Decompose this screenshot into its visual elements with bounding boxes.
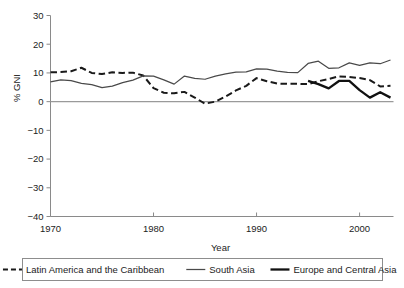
series-line-1 — [51, 68, 391, 104]
y-tick-label: −30 — [27, 182, 43, 193]
y-tick-label: 10 — [33, 67, 44, 78]
legend-label-2: South Asia — [209, 264, 255, 275]
y-tick-label: −20 — [27, 153, 43, 164]
chart-figure: 3020100−10−20−30−401970198019902000Year%… — [0, 0, 404, 288]
y-tick-label: −40 — [27, 211, 43, 222]
x-tick-label: 1980 — [143, 223, 164, 234]
line-chart: 3020100−10−20−30−401970198019902000Year%… — [0, 0, 404, 288]
y-tick-label: 20 — [33, 39, 44, 50]
x-tick-label: 2000 — [349, 223, 370, 234]
series-line-3 — [308, 81, 390, 98]
y-axis-title: % GNI — [11, 74, 22, 102]
legend-label-3: Europe and Central Asia — [293, 264, 397, 275]
x-axis-title: Year — [211, 242, 230, 253]
y-tick-label: 30 — [33, 10, 44, 21]
y-tick-label: 0 — [38, 96, 43, 107]
x-tick-label: 1990 — [246, 223, 267, 234]
y-tick-label: −10 — [27, 125, 43, 136]
legend-label-1: Latin America and the Caribbean — [26, 264, 164, 275]
x-tick-label: 1970 — [40, 223, 61, 234]
